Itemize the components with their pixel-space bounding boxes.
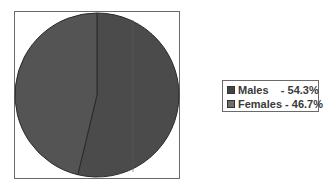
legend-swatch-females (227, 100, 235, 108)
legend-label-females: Females - 46.7% (238, 98, 323, 110)
legend-item-males: Males - 54.3% (227, 83, 318, 97)
legend-item-females: Females - 46.7% (227, 97, 318, 111)
legend: Males - 54.3% Females - 46.7% (222, 80, 319, 112)
legend-label-males: Males - 54.3% (238, 84, 319, 96)
legend-swatch-males (227, 86, 235, 94)
